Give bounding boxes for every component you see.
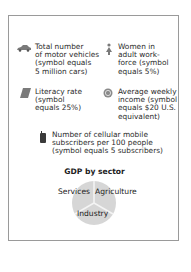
chart-title: GDP by sector xyxy=(9,167,180,176)
legend-item-cellular: Number of cellular mobile subscribers pe… xyxy=(52,131,177,156)
line: equivalent) xyxy=(118,113,180,121)
pie-label-agriculture: Agriculture xyxy=(95,187,137,196)
car-icon xyxy=(16,44,32,52)
line: (symbol equals 5 subscribers) xyxy=(52,147,177,155)
legend-item-women-workforce: Women in adult work- force (symbol equal… xyxy=(118,43,178,76)
woman-figure-icon xyxy=(105,43,113,55)
book-icon xyxy=(20,88,31,98)
legend-item-motor-vehicles: Total number of motor vehicles (symbol e… xyxy=(35,43,105,76)
line: equals 25%) xyxy=(35,104,97,112)
coin-icon xyxy=(103,88,113,98)
legend-item-literacy: Literacy rate (symbol equals 25%) xyxy=(35,88,97,113)
legend-frame: Total number of motor vehicles (symbol e… xyxy=(8,15,179,241)
cell-phone-icon xyxy=(40,131,46,143)
line: 5 million cars) xyxy=(35,68,105,76)
pie-label-industry: Industry xyxy=(77,209,108,218)
line: equals 5%) xyxy=(118,68,178,76)
legend-item-income: Average weekly income (symbol equals $20… xyxy=(118,88,180,121)
pie-label-services: Services xyxy=(58,187,90,196)
